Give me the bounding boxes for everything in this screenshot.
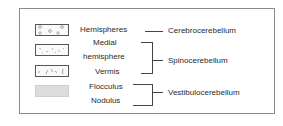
hemispheres-swatch [35,24,69,36]
vestibulo-bracket-top [133,84,153,85]
open-circles-pattern-icon [36,25,68,35]
nodulus-label: Nodulus [91,96,120,105]
flocculonodular-swatch [35,85,69,97]
vestibulocerebellum-label: Vestibulocerebellum [168,88,240,97]
cerebro-connector [145,31,163,32]
vestibulo-bracket-bottom [133,105,153,106]
squiggles-pattern-icon [36,66,68,76]
dashes-pattern-icon [36,45,68,55]
spino-connector [152,60,163,61]
medial-label-line1: Medial [93,38,117,47]
hemispheres-label: Hemispheres [80,25,127,34]
vermis-label: Vermis [95,67,119,76]
spino-bracket-vertical [152,42,153,73]
medial-hemisphere-swatch [35,44,69,56]
vermis-swatch [35,65,69,77]
spinocerebellum-label: Spinocerebellum [168,56,228,65]
vestibulo-bracket-vertical [152,84,153,105]
medial-label-line2: hemisphere [83,52,125,61]
spino-bracket-bottom [141,73,153,74]
flocculus-label: Flocculus [89,82,123,91]
vestibulo-connector [152,92,163,93]
cerebrocerebellum-label: Cerebrocerebellum [168,26,236,35]
